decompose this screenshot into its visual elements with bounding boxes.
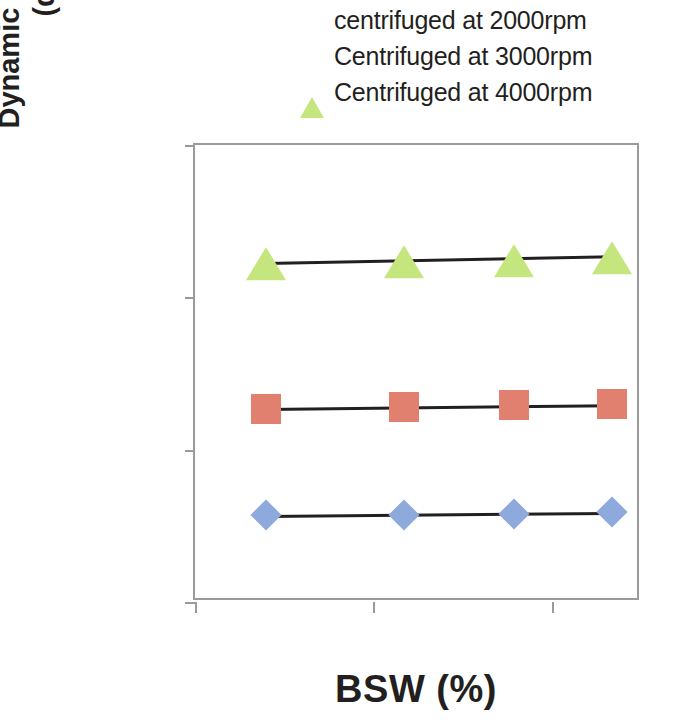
data-point — [597, 497, 628, 528]
legend-label-3000rpm: Centrifuged at 3000rpm — [334, 42, 592, 71]
triangle-marker-icon — [300, 80, 324, 104]
legend-label-4000rpm: Centrifuged at 4000rpm — [334, 78, 592, 107]
x-tick-mark — [552, 602, 554, 613]
trend-line — [266, 512, 612, 518]
x-tick-mark — [373, 602, 375, 613]
data-point — [597, 389, 627, 419]
x-axis-title: BSW (%) — [193, 668, 639, 711]
y-tick-mark — [185, 450, 195, 452]
data-point — [251, 394, 281, 424]
x-tick-mark — [195, 602, 197, 613]
data-point — [499, 498, 530, 529]
data-point — [388, 500, 419, 531]
data-point — [592, 241, 632, 274]
trend-line — [266, 404, 612, 411]
legend-label-2000rpm: centrifuged at 2000rpm — [334, 6, 587, 35]
trend-line — [266, 255, 612, 265]
data-point — [494, 244, 534, 277]
plot-area: 0123 51525 — [193, 143, 639, 600]
data-point — [389, 392, 419, 422]
chart-legend: centrifuged at 2000rpm Centrifuged at 30… — [300, 2, 680, 110]
legend-item-4000rpm: Centrifuged at 4000rpm — [300, 74, 680, 110]
y-tick-mark — [185, 297, 195, 299]
data-point — [384, 245, 424, 278]
square-marker-icon — [300, 44, 324, 68]
legend-item-3000rpm: Centrifuged at 3000rpm — [300, 38, 680, 74]
y-axis-title: Dynamic interfacial tension (dynes/cm) — [0, 0, 63, 150]
y-axis-title-line1: Dynamic interfacial tension — [0, 0, 27, 150]
diamond-marker-icon — [300, 8, 324, 32]
y-axis-title-line2: (dynes/cm) — [27, 0, 62, 150]
data-point — [499, 390, 529, 420]
y-tick-mark — [185, 602, 195, 604]
y-tick-mark — [185, 145, 195, 147]
data-point — [246, 247, 286, 280]
legend-item-2000rpm: centrifuged at 2000rpm — [300, 2, 680, 38]
data-point — [251, 500, 282, 531]
